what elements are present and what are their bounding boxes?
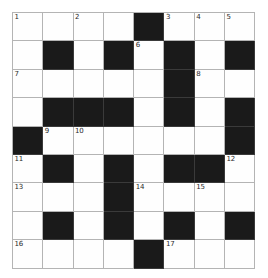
- crossword-grid[interactable]: 1234567891011121314151617: [12, 12, 255, 269]
- crossword-block-cell: [104, 98, 134, 126]
- crossword-open-cell[interactable]: [74, 240, 104, 268]
- crossword-open-cell[interactable]: 3: [164, 13, 194, 41]
- crossword-clue-number: 12: [227, 155, 236, 164]
- crossword-open-cell[interactable]: 9: [43, 127, 73, 155]
- crossword-open-cell[interactable]: [134, 212, 164, 240]
- crossword-open-cell[interactable]: 6: [134, 41, 164, 69]
- crossword-open-cell[interactable]: 12: [225, 155, 255, 183]
- crossword-block-cell: [104, 41, 134, 69]
- crossword-open-cell[interactable]: [164, 127, 194, 155]
- crossword-open-cell[interactable]: [225, 183, 255, 211]
- crossword-open-cell[interactable]: 16: [13, 240, 43, 268]
- crossword-clue-number: 11: [15, 155, 24, 164]
- crossword-block-cell: [225, 41, 255, 69]
- crossword-open-cell[interactable]: 5: [225, 13, 255, 41]
- crossword-clue-number: 9: [45, 127, 49, 136]
- crossword-open-cell[interactable]: [43, 70, 73, 98]
- crossword-open-cell[interactable]: [104, 127, 134, 155]
- crossword-open-cell[interactable]: 11: [13, 155, 43, 183]
- crossword-clue-number: 16: [15, 240, 24, 249]
- crossword-block-cell: [43, 41, 73, 69]
- crossword-open-cell[interactable]: [43, 13, 73, 41]
- crossword-open-cell[interactable]: 15: [195, 183, 225, 211]
- crossword-open-cell[interactable]: [13, 41, 43, 69]
- crossword-open-cell[interactable]: 7: [13, 70, 43, 98]
- crossword-open-cell[interactable]: [74, 41, 104, 69]
- crossword-block-cell: [74, 98, 104, 126]
- crossword-open-cell[interactable]: 14: [134, 183, 164, 211]
- crossword-open-cell[interactable]: [225, 240, 255, 268]
- crossword-open-cell[interactable]: 8: [195, 70, 225, 98]
- crossword-block-cell: [195, 155, 225, 183]
- crossword-open-cell[interactable]: 4: [195, 13, 225, 41]
- crossword-clue-number: 15: [196, 183, 205, 192]
- crossword-open-cell[interactable]: [74, 155, 104, 183]
- crossword-open-cell[interactable]: [134, 127, 164, 155]
- crossword-clue-number: 6: [136, 41, 140, 50]
- crossword-open-cell[interactable]: [74, 212, 104, 240]
- crossword-open-cell[interactable]: 17: [164, 240, 194, 268]
- crossword-block-cell: [225, 127, 255, 155]
- crossword-clue-number: 5: [227, 13, 231, 22]
- crossword-open-cell[interactable]: 13: [13, 183, 43, 211]
- crossword-block-cell: [104, 212, 134, 240]
- crossword-open-cell[interactable]: [134, 98, 164, 126]
- crossword-clue-number: 14: [136, 183, 145, 192]
- crossword-open-cell[interactable]: [104, 13, 134, 41]
- crossword-clue-number: 1: [15, 13, 19, 22]
- crossword-open-cell[interactable]: 1: [13, 13, 43, 41]
- crossword-open-cell[interactable]: [13, 212, 43, 240]
- crossword-block-cell: [104, 183, 134, 211]
- crossword-block-cell: [13, 127, 43, 155]
- crossword-open-cell[interactable]: [104, 70, 134, 98]
- crossword-puzzle-root: 1234567891011121314151617: [0, 0, 268, 278]
- crossword-block-cell: [43, 98, 73, 126]
- crossword-block-cell: [164, 41, 194, 69]
- crossword-open-cell[interactable]: [104, 240, 134, 268]
- crossword-open-cell[interactable]: 10: [74, 127, 104, 155]
- crossword-clue-number: 13: [15, 183, 24, 192]
- crossword-clue-number: 2: [75, 13, 79, 22]
- crossword-open-cell[interactable]: [225, 70, 255, 98]
- crossword-open-cell[interactable]: [195, 41, 225, 69]
- crossword-block-cell: [164, 212, 194, 240]
- crossword-block-cell: [164, 98, 194, 126]
- crossword-open-cell[interactable]: [164, 183, 194, 211]
- crossword-open-cell[interactable]: [134, 70, 164, 98]
- crossword-block-cell: [43, 155, 73, 183]
- crossword-clue-number: 7: [15, 70, 19, 79]
- crossword-block-cell: [164, 70, 194, 98]
- crossword-open-cell[interactable]: [43, 240, 73, 268]
- crossword-clue-number: 4: [196, 13, 200, 22]
- crossword-block-cell: [134, 13, 164, 41]
- crossword-open-cell[interactable]: 2: [74, 13, 104, 41]
- crossword-block-cell: [164, 155, 194, 183]
- crossword-clue-number: 8: [196, 70, 200, 79]
- crossword-open-cell[interactable]: [195, 212, 225, 240]
- crossword-clue-number: 17: [166, 240, 175, 249]
- crossword-open-cell[interactable]: [13, 98, 43, 126]
- crossword-block-cell: [225, 98, 255, 126]
- crossword-open-cell[interactable]: [195, 127, 225, 155]
- crossword-block-cell: [43, 212, 73, 240]
- crossword-open-cell[interactable]: [134, 155, 164, 183]
- crossword-open-cell[interactable]: [43, 183, 73, 211]
- crossword-clue-number: 3: [166, 13, 170, 22]
- crossword-clue-number: 10: [75, 127, 84, 136]
- crossword-block-cell: [104, 155, 134, 183]
- crossword-block-cell: [134, 240, 164, 268]
- crossword-open-cell[interactable]: [74, 70, 104, 98]
- crossword-open-cell[interactable]: [74, 183, 104, 211]
- crossword-block-cell: [225, 212, 255, 240]
- crossword-open-cell[interactable]: [195, 98, 225, 126]
- crossword-open-cell[interactable]: [195, 240, 225, 268]
